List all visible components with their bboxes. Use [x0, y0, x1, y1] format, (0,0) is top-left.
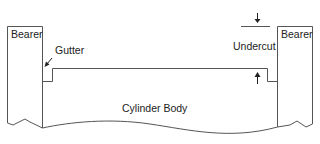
cylinder-body-outline	[43, 69, 278, 82]
down-arrow-icon	[255, 13, 261, 23]
gutter-label: Gutter	[55, 44, 85, 56]
cylinder-body-bottom-edge	[43, 121, 278, 133]
cylinder-diagram: Bearer Gutter Undercut Bearer Cylinder B…	[0, 0, 320, 144]
undercut-label: Undercut	[233, 40, 276, 52]
gutter-arrow-icon	[45, 58, 53, 67]
cylinder-body-label: Cylinder Body	[122, 102, 188, 114]
left-bearer-shape	[8, 27, 43, 129]
up-arrow-icon	[255, 72, 261, 84]
right-bearer-shape	[278, 27, 313, 128]
right-bearer-label: Bearer	[281, 28, 313, 40]
left-bearer-label: Bearer	[11, 28, 43, 40]
